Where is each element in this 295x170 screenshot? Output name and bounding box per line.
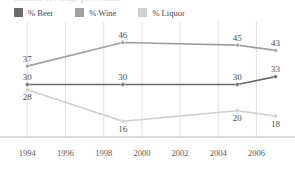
data-point-label: 30	[23, 72, 33, 82]
data-point[interactable]	[25, 64, 29, 68]
data-point[interactable]	[121, 119, 125, 123]
data-point[interactable]	[274, 75, 278, 79]
x-tick-2004: 2004	[210, 148, 227, 158]
series-wine: 37464543	[23, 30, 281, 68]
data-point-label: 20	[233, 113, 243, 123]
legend-swatch-icon	[138, 8, 147, 17]
clipped-header-strip: alcohol beverage preference	[0, 0, 295, 5]
legend-label-wine: % Wine	[89, 8, 116, 18]
legend-item-beer[interactable]: % Beer	[14, 8, 53, 18]
chart-legend: % Beer % Wine % Liquor	[14, 6, 207, 19]
data-point[interactable]	[25, 83, 29, 87]
x-tick-2002: 2002	[172, 148, 189, 158]
data-point-label: 18	[271, 119, 281, 129]
legend-label-liquor: % Liquor	[152, 8, 184, 18]
data-point-label: 28	[23, 92, 33, 102]
legend-label-beer: % Beer	[28, 8, 53, 18]
data-point-label: 16	[118, 124, 128, 134]
data-point-label: 37	[23, 54, 33, 64]
data-point-label: 46	[118, 30, 128, 40]
data-point[interactable]	[235, 109, 239, 113]
data-point[interactable]	[25, 88, 29, 92]
data-point-label: 30	[233, 72, 243, 82]
x-tick-2006: 2006	[248, 148, 265, 158]
line-chart-plot-area: 281620183746454330303033	[0, 22, 295, 147]
clipped-header-text: alcohol beverage preference	[14, 0, 121, 3]
legend-swatch-icon	[75, 8, 84, 17]
legend-item-liquor[interactable]: % Liquor	[138, 8, 184, 18]
data-point-label: 43	[271, 38, 281, 48]
chart-svg: 281620183746454330303033	[0, 22, 295, 147]
x-tick-1998: 1998	[95, 148, 112, 158]
series-beer: 30303033	[23, 64, 281, 86]
data-point[interactable]	[121, 83, 125, 87]
data-point[interactable]	[274, 114, 278, 118]
data-point-label: 33	[271, 64, 281, 74]
legend-swatch-icon	[14, 8, 23, 17]
x-axis-tick-labels: 1994199619982000200220042006	[0, 148, 295, 164]
data-point-label: 30	[118, 72, 128, 82]
x-tick-1996: 1996	[57, 148, 74, 158]
legend-item-wine[interactable]: % Wine	[75, 8, 116, 18]
data-point[interactable]	[235, 83, 239, 87]
data-point-label: 45	[233, 33, 243, 43]
x-tick-1994: 1994	[19, 148, 36, 158]
x-tick-2000: 2000	[133, 148, 150, 158]
data-point[interactable]	[121, 41, 125, 45]
series-liquor: 28162018	[23, 88, 281, 134]
data-point[interactable]	[274, 48, 278, 52]
data-point[interactable]	[235, 43, 239, 47]
